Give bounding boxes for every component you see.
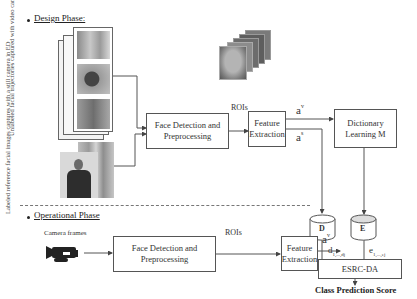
operational-phase-title: Operational Phase bbox=[34, 210, 100, 220]
feature-extraction-design-box: Feature Extraction bbox=[248, 111, 286, 147]
bullet bbox=[27, 216, 30, 219]
d-atoms-label: d1,...,dj bbox=[328, 245, 345, 257]
bullet bbox=[27, 19, 30, 22]
still-images-label: Labeled reference facial images captures… bbox=[4, 152, 12, 214]
person-head bbox=[74, 159, 83, 170]
video-camera-icon bbox=[44, 243, 84, 265]
face-detection-operational-box: Face Detection and Preprocessing bbox=[113, 236, 216, 272]
a-v-design-symbol: av bbox=[296, 103, 304, 116]
a-v-operational-symbol: av bbox=[322, 232, 330, 245]
feature-extraction-operational-box: Feature Extraction bbox=[281, 236, 318, 271]
design-phase-title: Design Phase: bbox=[34, 13, 85, 23]
class-prediction-score-label: Class Prediction Score bbox=[315, 285, 396, 295]
camera-frames-label: Camera frames bbox=[44, 229, 87, 237]
a-s-symbol: as bbox=[296, 130, 303, 143]
face-detection-design-box: Face Detection and Preprocessing bbox=[146, 113, 229, 149]
video-frame-3 bbox=[77, 99, 110, 129]
database-e-label: E bbox=[360, 224, 365, 233]
rois-operational-label: ROIs bbox=[225, 228, 242, 237]
phase-separator bbox=[20, 205, 310, 206]
still-photo-front bbox=[60, 152, 98, 198]
dictionary-learning-box: Dictionary Learning M bbox=[334, 109, 397, 148]
person-body bbox=[67, 170, 91, 198]
esrc-da-box: ESRC-DA bbox=[318, 259, 402, 279]
video-frames-stack bbox=[73, 27, 113, 132]
e-atoms-label: e1,...,ej bbox=[369, 245, 385, 257]
video-frame-2 bbox=[77, 64, 110, 94]
video-frame-1 bbox=[77, 31, 110, 59]
rois-design-label: ROIs bbox=[231, 103, 248, 112]
face-images-stack bbox=[213, 30, 273, 85]
